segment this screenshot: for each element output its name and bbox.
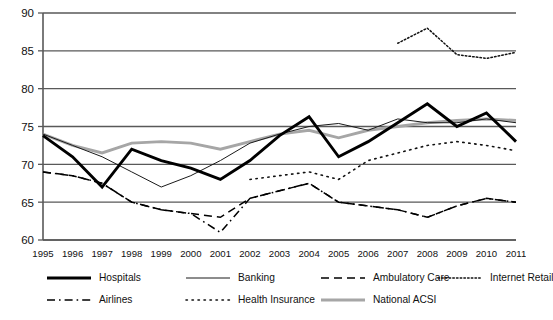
- legend-label: Health Insurance: [238, 295, 315, 305]
- legend-label: Airlines: [99, 295, 132, 305]
- legend-swatch-dotted-fine: [437, 272, 483, 284]
- y-tick-label: 90: [21, 7, 34, 19]
- y-tick-label: 65: [21, 197, 34, 209]
- legend-label: Banking: [238, 273, 275, 283]
- series-line-internet-retail: [398, 28, 516, 58]
- y-tick-label: 60: [21, 234, 34, 246]
- legend-row-1: HospitalsBankingAmbulatory CareInternet …: [0, 268, 526, 290]
- legend-item-banking[interactable]: Banking: [185, 272, 275, 284]
- legend-label: National ACSI: [373, 295, 436, 305]
- legend-label: Hospitals: [99, 273, 141, 283]
- legend-item-national-acsi[interactable]: National ACSI: [320, 294, 436, 306]
- series-line-hospitals: [43, 104, 516, 187]
- legend-item-ambulatory-care[interactable]: Ambulatory Care: [320, 272, 449, 284]
- legend-swatch-solid-thick-black: [46, 272, 92, 284]
- legend-label: Internet Retail: [490, 273, 553, 283]
- legend-swatch-dash-dot: [46, 294, 92, 306]
- chart-legend: HospitalsBankingAmbulatory CareInternet …: [0, 268, 526, 320]
- gridlines-group: [43, 13, 516, 240]
- legend-item-internet-retail[interactable]: Internet Retail: [437, 272, 553, 284]
- series-line-health-insurance: [250, 142, 516, 180]
- legend-item-health-insurance[interactable]: Health Insurance: [185, 294, 315, 306]
- legend-swatch-dashed: [320, 272, 366, 284]
- series-line-banking: [43, 119, 516, 187]
- legend-item-hospitals[interactable]: Hospitals: [46, 272, 141, 284]
- legend-swatch-solid-thick-gray: [320, 294, 366, 306]
- legend-swatch-solid-thin-black: [185, 272, 231, 284]
- legend-item-airlines[interactable]: Airlines: [46, 294, 132, 306]
- y-tick-label: 70: [21, 159, 34, 171]
- y-axis-tick-labels: 60657075808590: [21, 7, 43, 246]
- plot-svg: 60657075808590: [0, 0, 526, 250]
- y-tick-label: 85: [21, 45, 34, 57]
- plot-area: 60657075808590: [0, 0, 526, 250]
- y-tick-label: 75: [21, 121, 34, 133]
- legend-row-2: AirlinesHealth InsuranceNational ACSI: [0, 290, 526, 312]
- legend-swatch-dotted-sparse: [185, 294, 231, 306]
- y-tick-label: 80: [21, 83, 34, 95]
